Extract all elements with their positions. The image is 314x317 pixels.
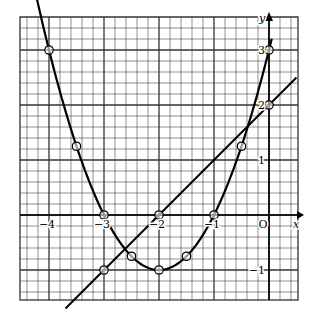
y-axis-label: y: [258, 12, 266, 25]
y-tick-label: −1: [249, 264, 265, 277]
x-tick-label: −2: [149, 218, 165, 231]
graph-paper-grid: [20, 17, 298, 300]
origin-label: O: [258, 218, 267, 231]
data-point-marker: [182, 252, 190, 260]
y-tick-label: 1: [258, 154, 265, 167]
x-tick-label: −3: [94, 218, 110, 231]
data-point-marker: [265, 46, 273, 54]
data-point-marker: [45, 46, 53, 54]
y-tick-label: 2: [258, 99, 265, 112]
x-tick-label: −4: [39, 218, 55, 231]
data-point-marker: [72, 142, 80, 150]
data-point-marker: [237, 142, 245, 150]
x-axis-label: x: [293, 218, 300, 231]
data-point-marker: [265, 101, 273, 109]
graph-figure: −4−3−2−1321−1Oxy: [0, 0, 314, 317]
x-tick-label: −1: [204, 218, 220, 231]
data-point-marker: [155, 266, 163, 274]
y-tick-label: 3: [258, 44, 265, 57]
data-point-marker: [127, 252, 135, 260]
data-point-marker: [100, 266, 108, 274]
